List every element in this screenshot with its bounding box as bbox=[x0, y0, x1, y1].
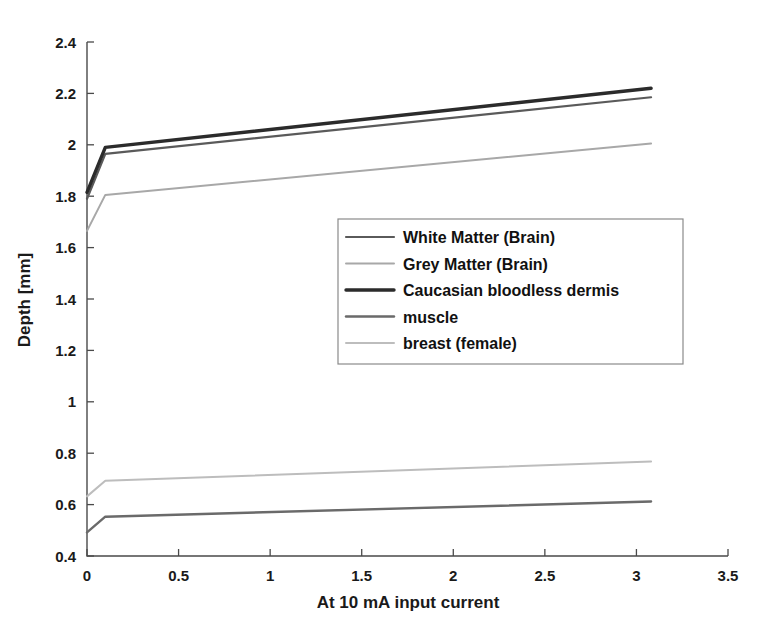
series-line-1 bbox=[87, 144, 651, 231]
legend-item-label: Caucasian bloodless dermis bbox=[403, 282, 619, 299]
x-tick-label: 0.5 bbox=[168, 567, 189, 584]
line-chart-svg: 0.40.60.811.21.41.61.822.22.4 00.511.522… bbox=[0, 0, 771, 635]
y-tick-label: 1.6 bbox=[55, 239, 76, 256]
x-tick-label: 2.5 bbox=[534, 567, 555, 584]
x-tick-label: 3 bbox=[632, 567, 640, 584]
y-tick-label: 1.2 bbox=[55, 342, 76, 359]
x-tick-label: 1 bbox=[266, 567, 274, 584]
series-line-4 bbox=[87, 461, 651, 496]
y-tick-label: 1 bbox=[68, 393, 76, 410]
x-axis-title: At 10 mA input current bbox=[317, 593, 500, 612]
y-tick-label: 2.2 bbox=[55, 85, 76, 102]
legend-item-label: White Matter (Brain) bbox=[403, 229, 555, 246]
x-tick-label: 0 bbox=[83, 567, 91, 584]
y-axis-title: Depth [mm] bbox=[15, 253, 34, 347]
x-axis-tick-group: 00.511.522.533.5 bbox=[83, 549, 739, 584]
chart-legend: White Matter (Brain)Grey Matter (Brain)C… bbox=[338, 219, 683, 364]
series-line-0 bbox=[87, 97, 651, 199]
y-axis-tick-group: 0.40.60.811.21.41.61.822.22.4 bbox=[55, 34, 94, 565]
legend-item-label: Grey Matter (Brain) bbox=[403, 256, 548, 273]
x-tick-label: 2 bbox=[449, 567, 457, 584]
x-tick-label: 1.5 bbox=[351, 567, 372, 584]
y-tick-label: 2 bbox=[68, 136, 76, 153]
x-tick-label: 3.5 bbox=[718, 567, 739, 584]
series-line-2 bbox=[87, 88, 651, 192]
legend-item-label: breast (female) bbox=[403, 335, 517, 352]
y-tick-label: 0.8 bbox=[55, 445, 76, 462]
chart-figure: 0.40.60.811.21.41.61.822.22.4 00.511.522… bbox=[0, 0, 771, 635]
y-tick-label: 2.4 bbox=[55, 34, 77, 51]
y-tick-label: 1.8 bbox=[55, 188, 76, 205]
y-tick-label: 0.6 bbox=[55, 496, 76, 513]
y-tick-label: 1.4 bbox=[55, 291, 77, 308]
series-line-3 bbox=[87, 502, 651, 533]
y-tick-label: 0.4 bbox=[55, 548, 77, 565]
legend-item-label: muscle bbox=[403, 309, 458, 326]
